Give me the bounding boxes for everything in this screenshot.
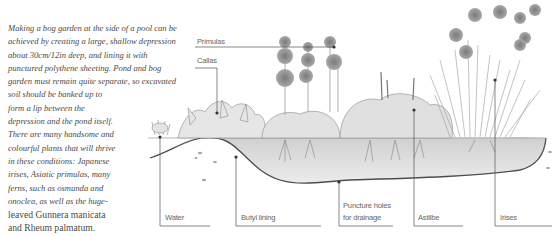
description-line: Making a bog garden at the side of a poo… — [8, 22, 177, 35]
description-line: about 30cm/12in deep, and lining it with — [8, 49, 177, 62]
description-line: achieved by creating a large, shallow de… — [8, 35, 177, 48]
label-for-drainage: for drainage — [343, 213, 381, 222]
primula-plants — [262, 36, 342, 138]
astilbe-plants — [340, 72, 453, 138]
description-line: form a lip between the — [8, 102, 177, 115]
description-paragraph: Making a bog garden at the side of a poo… — [8, 22, 177, 235]
label-water: Water — [165, 213, 184, 222]
description-line: ferns, such as osmunda and — [8, 182, 177, 195]
label-callas: Callas — [197, 56, 217, 65]
description-line: onoclea, as well as the huge- — [8, 195, 177, 208]
label-irises: Irises — [500, 213, 517, 222]
description-line: leaved Gunnera manicata — [8, 208, 177, 221]
soil-bed — [150, 136, 546, 183]
description-line: There are many handsome and — [8, 128, 177, 141]
iris-flowers — [449, 4, 541, 59]
label-astilbe: Astilbe — [418, 213, 439, 222]
description-line: and Rheum palmatum. — [8, 221, 177, 234]
description-line: in these conditions: Japanese — [8, 155, 177, 168]
description-line: colourful plants that will thrive — [8, 142, 177, 155]
callas-plants — [178, 100, 265, 138]
description-line: punctured polythene sheeting. Pond and b… — [8, 62, 177, 75]
description-line: depression and the pond itself. — [8, 115, 177, 128]
label-primulas: Primulas — [197, 37, 225, 46]
label-puncture-holes: Puncture holes — [343, 201, 391, 210]
description-line: irises, Asiatic primulas, many — [8, 168, 177, 181]
label-butyl-lining: Butyl lining — [241, 213, 275, 222]
description-line: soil should be banked up to — [8, 88, 177, 101]
description-line: garden must remain quite separate, so ex… — [8, 75, 177, 88]
